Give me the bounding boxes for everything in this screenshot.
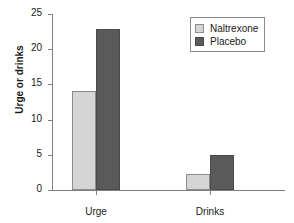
legend-label-naltrexone: Naltrexone	[210, 23, 258, 34]
y-tick-label-10: 10	[31, 113, 42, 124]
bar-drinks-placebo	[210, 155, 234, 190]
y-tick-5: 5	[48, 155, 52, 156]
bar-drinks-naltrexone	[186, 174, 210, 190]
bar-chart: Urge or drinks 25 20 15 10 5 0 Urge	[0, 0, 294, 223]
x-axis-line	[52, 190, 285, 191]
legend-label-placebo: Placebo	[210, 36, 246, 47]
bar-urge-placebo	[96, 29, 120, 190]
legend-swatch-naltrexone-icon	[195, 24, 204, 33]
y-tick-10: 10	[48, 120, 52, 121]
x-axis-label-urge: Urge	[85, 206, 107, 217]
y-tick-15: 15	[48, 84, 52, 85]
y-tick-label-0: 0	[36, 183, 42, 194]
legend-swatch-placebo-icon	[195, 37, 204, 46]
y-axis-line	[52, 14, 53, 191]
y-tick-20: 20	[48, 49, 52, 50]
legend-item-naltrexone: Naltrexone	[195, 22, 258, 34]
x-tick-drinks	[210, 191, 211, 195]
legend-item-placebo: Placebo	[195, 35, 258, 47]
x-tick-urge	[96, 191, 97, 195]
y-tick-label-15: 15	[31, 77, 42, 88]
legend: Naltrexone Placebo	[190, 17, 265, 52]
y-tick-25: 25	[48, 14, 52, 15]
y-axis-label: Urge or drinks	[14, 25, 25, 135]
x-axis-label-drinks: Drinks	[196, 206, 224, 217]
y-tick-label-20: 20	[31, 42, 42, 53]
y-tick-label-25: 25	[31, 7, 42, 18]
y-tick-0: 0	[48, 190, 52, 191]
y-tick-label-5: 5	[36, 148, 42, 159]
bar-urge-naltrexone	[72, 91, 96, 190]
